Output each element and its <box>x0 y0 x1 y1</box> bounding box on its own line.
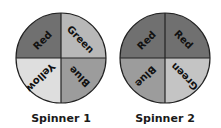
spinner-1: Red Green Blue Yellow <box>15 12 107 104</box>
spinner-2-caption: Spinner 2 <box>115 112 215 125</box>
spinner-2: Red Red Green Blue <box>119 12 211 104</box>
spinner-1-caption: Spinner 1 <box>11 112 111 125</box>
